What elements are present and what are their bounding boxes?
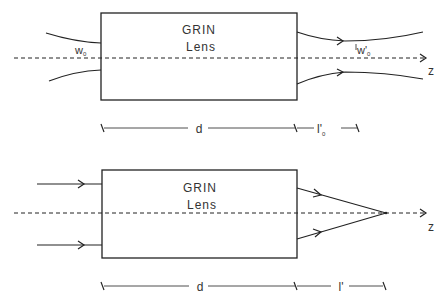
grin-lens-diagram: z GRIN Lens w0 w'0 d l'0 z bbox=[0, 0, 447, 306]
bottom-diagram: z GRIN Lens d l' bbox=[14, 170, 434, 294]
output-ray-lower bbox=[297, 213, 386, 239]
axis-label-top: z bbox=[428, 64, 434, 78]
focal-point bbox=[385, 212, 388, 215]
input-waist-label: w0 bbox=[74, 44, 87, 57]
lens-label-top-1: GRIN bbox=[182, 23, 216, 37]
dim-label-l-bottom: l' bbox=[339, 280, 344, 294]
lens-label-bottom-2: Lens bbox=[187, 198, 217, 212]
output-beam-upper bbox=[297, 32, 423, 41]
axis-label-bottom: z bbox=[428, 220, 434, 234]
input-beam-lower bbox=[49, 70, 101, 81]
dim-label-l0-top: l'0 bbox=[317, 122, 326, 137]
dim-label-d-top: d bbox=[196, 122, 203, 136]
dimension-line-bottom: d l' bbox=[101, 280, 386, 294]
dimension-line-top: d l'0 bbox=[101, 122, 359, 137]
top-diagram: z GRIN Lens w0 w'0 d l'0 bbox=[14, 13, 434, 137]
dim-label-d-bottom: d bbox=[197, 280, 204, 294]
input-beam-upper bbox=[46, 33, 101, 43]
output-ray-upper bbox=[297, 188, 386, 213]
lens-label-bottom-1: GRIN bbox=[183, 181, 217, 195]
lens-label-top-2: Lens bbox=[186, 40, 216, 54]
output-waist-label: w'0 bbox=[356, 44, 371, 57]
output-beam-lower bbox=[297, 72, 423, 84]
